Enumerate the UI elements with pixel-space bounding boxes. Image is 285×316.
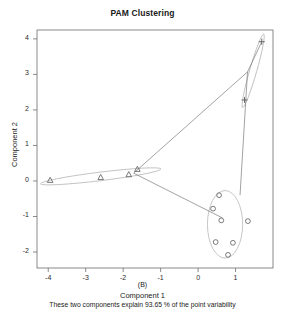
data-point-circle bbox=[231, 240, 236, 245]
x-axis-tick-label: -4 bbox=[38, 274, 58, 281]
cluster-ellipse bbox=[40, 165, 162, 188]
y-axis-tick-label: -1 bbox=[13, 211, 29, 218]
pam-clustering-plot: PAM Clustering Component 2 (B) Component… bbox=[0, 0, 285, 316]
y-axis-tick-label: -2 bbox=[13, 247, 29, 254]
y-axis-tick-label: 1 bbox=[13, 140, 29, 147]
data-point-circle bbox=[246, 219, 251, 224]
data-point-triangle bbox=[98, 174, 104, 179]
cluster-link-line bbox=[134, 173, 223, 218]
x-axis-tick-label: 0 bbox=[188, 274, 208, 281]
cluster-ellipse bbox=[207, 191, 242, 258]
variability-subtitle: These two components explain 93.65 % of … bbox=[0, 301, 285, 308]
panel-letter-label: (B) bbox=[0, 281, 285, 288]
cluster-link-layer bbox=[134, 42, 262, 218]
data-point-circle bbox=[211, 206, 216, 211]
cluster-ellipse bbox=[239, 33, 267, 108]
data-point-triangle bbox=[126, 172, 132, 177]
cluster-link-line bbox=[134, 72, 248, 173]
cluster-link-line bbox=[240, 72, 247, 195]
x-axis-tick-label: 1 bbox=[226, 274, 246, 281]
x-axis-tick-label: -3 bbox=[76, 274, 96, 281]
x-axis-tick-label: -1 bbox=[151, 274, 171, 281]
cluster-ellipse-layer bbox=[40, 33, 267, 258]
x-axis-tick-label: -2 bbox=[113, 274, 133, 281]
data-point-circle bbox=[226, 252, 231, 257]
y-axis-tick-label: 2 bbox=[13, 105, 29, 112]
page-title: PAM Clustering bbox=[0, 8, 285, 18]
plot-canvas bbox=[0, 0, 285, 316]
y-axis-tick-label: 3 bbox=[13, 69, 29, 76]
cluster-link-line bbox=[248, 42, 262, 72]
data-point-circle bbox=[213, 240, 218, 245]
plot-frame-layer bbox=[33, 30, 273, 272]
y-axis-tick-label: 4 bbox=[13, 34, 29, 41]
y-axis-tick-label: 0 bbox=[13, 176, 29, 183]
data-point-circle bbox=[217, 193, 222, 198]
x-axis-label: Component 1 bbox=[0, 291, 285, 300]
data-point-circle bbox=[219, 218, 224, 223]
data-point-layer bbox=[47, 39, 264, 258]
